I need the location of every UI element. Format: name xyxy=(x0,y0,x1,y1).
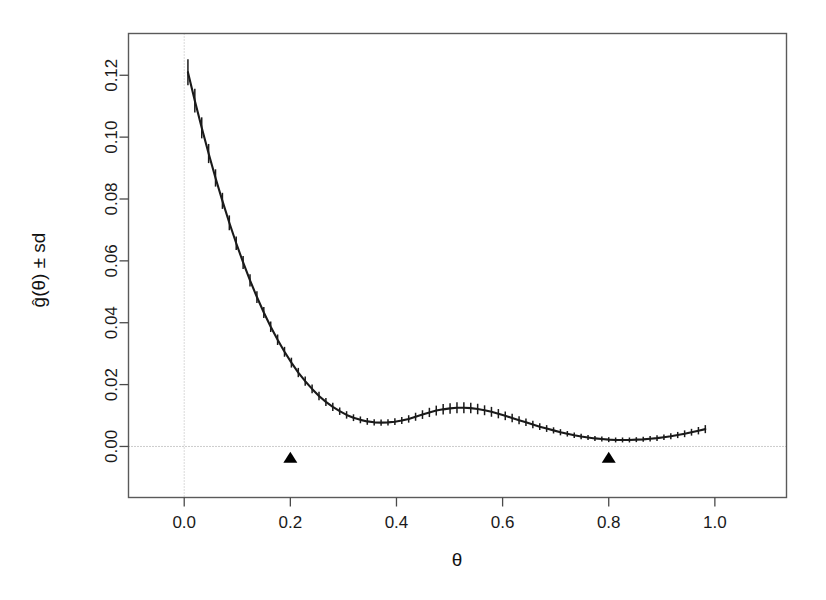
y-tick-label: 0.06 xyxy=(103,244,122,277)
y-tick-label: 0.12 xyxy=(103,59,122,92)
y-tick-label: 0.10 xyxy=(103,121,122,154)
x-tick-label: 0.0 xyxy=(172,513,196,532)
x-tick-label: 1.0 xyxy=(703,513,727,532)
y-tick-label: 0.04 xyxy=(103,306,122,339)
y-tick-label: 0.08 xyxy=(103,182,122,215)
y-axis-title: ĝ(θ) ± sd xyxy=(28,233,49,308)
x-tick-label: 0.6 xyxy=(491,513,515,532)
y-tick-label: 0.00 xyxy=(103,430,122,463)
y-tick-label: 0.02 xyxy=(103,368,122,401)
x-tick-label: 0.4 xyxy=(385,513,409,532)
x-tick-label: 0.2 xyxy=(279,513,303,532)
figure-container: 0.00.20.40.60.81.0 0.000.020.040.060.080… xyxy=(0,0,826,600)
x-axis-title: θ xyxy=(452,549,463,570)
chart-canvas: 0.00.20.40.60.81.0 0.000.020.040.060.080… xyxy=(0,0,826,600)
plot-background xyxy=(0,0,826,600)
x-tick-label: 0.8 xyxy=(597,513,621,532)
